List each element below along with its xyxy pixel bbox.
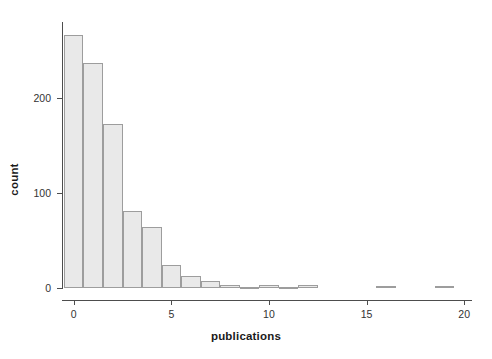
x-tick-label: 20 xyxy=(458,308,470,320)
histogram-bar xyxy=(64,35,84,288)
histogram-figure: count 0100200 05101520 publications xyxy=(0,0,492,359)
x-tick-mark xyxy=(171,300,172,305)
y-tick-label: 200 xyxy=(33,92,51,104)
x-axis-label: publications xyxy=(0,330,492,342)
histogram-bar xyxy=(259,285,279,288)
histogram-bar xyxy=(298,285,318,288)
histogram-bar xyxy=(279,287,299,289)
histogram-bar xyxy=(103,124,123,288)
x-tick-label: 5 xyxy=(168,308,174,320)
histogram-bar xyxy=(181,276,201,288)
y-tick-label: 0 xyxy=(45,282,51,294)
plot-area xyxy=(62,22,472,288)
histogram-bar xyxy=(162,265,182,288)
y-tick-mark xyxy=(57,288,62,289)
x-tick-mark xyxy=(464,300,465,305)
histogram-bar xyxy=(83,63,103,288)
x-axis-line xyxy=(62,300,472,301)
x-tick-mark xyxy=(74,300,75,305)
y-tick-label: 100 xyxy=(33,187,51,199)
y-axis-label: count xyxy=(0,0,28,359)
histogram-bar xyxy=(142,227,162,288)
histogram-bar xyxy=(376,286,396,288)
x-tick-label: 0 xyxy=(71,308,77,320)
x-tick-label: 10 xyxy=(263,308,275,320)
x-tick-mark xyxy=(367,300,368,305)
x-tick-mark xyxy=(269,300,270,305)
histogram-bar xyxy=(240,287,260,289)
histogram-bar xyxy=(201,281,221,288)
histogram-bar xyxy=(220,285,240,288)
histogram-bar xyxy=(435,286,455,288)
histogram-bar xyxy=(123,211,143,288)
x-tick-label: 15 xyxy=(361,308,373,320)
